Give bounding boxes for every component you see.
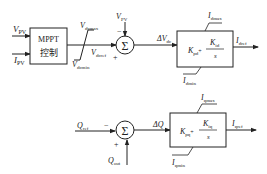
- top-loop: VPV IPV MPPT 控制 Vdcmax Vdcmin Vdcref Σ V…: [12, 11, 258, 86]
- pi-controller-q: [170, 113, 226, 147]
- s-denominator: s: [214, 52, 217, 60]
- idmax-label: Idmax: [207, 11, 222, 21]
- plus-sign: +: [113, 53, 118, 62]
- qref-label: Qref: [77, 121, 89, 131]
- iqmax-label: Iqmax: [200, 93, 215, 103]
- iqmin-leader: [172, 147, 193, 155]
- vdcmax-label: Vdcmax: [80, 21, 99, 31]
- iqmin-label: Iqmin: [171, 158, 185, 168]
- vpv-feedback-label: VPV: [116, 12, 128, 22]
- idmin-label: Idmin: [182, 76, 196, 86]
- delta-vdc-label: ΔVdc: [156, 34, 172, 44]
- mppt-label: MPPT: [38, 35, 59, 44]
- iqref-label: Iqref: [231, 119, 243, 129]
- sigma-symbol-2: Σ: [122, 124, 129, 138]
- control-diagram: VPV IPV MPPT 控制 Vdcmax Vdcmin Vdcref Σ V…: [0, 0, 267, 174]
- s-denominator-2: s: [207, 133, 210, 141]
- minus-sign: −: [117, 27, 122, 36]
- pi-controller-d: [177, 31, 233, 67]
- plus-sign-2: +: [114, 140, 119, 149]
- qout-label: Qout: [108, 156, 121, 166]
- bottom-loop: Qref − Σ + Qout ΔQ Kpq+ Kiq s Iqmax Iqmi…: [75, 93, 256, 168]
- vdcmin-label: Vdcmin: [72, 60, 90, 70]
- vdcref-label: Vdcref: [91, 48, 106, 58]
- idmin-leader: [183, 67, 201, 74]
- minus-sign-2: −: [104, 121, 109, 130]
- mppt-control-label: 控制: [40, 47, 58, 58]
- ipv-input-label: IPV: [13, 55, 25, 66]
- delta-q-label: ΔQ: [152, 120, 164, 129]
- iqmax-leader: [197, 104, 217, 113]
- vpv-input-label: VPV: [13, 24, 27, 35]
- idmax-leader: [205, 23, 222, 31]
- mppt-block: [30, 28, 67, 64]
- idref-label: Idref: [235, 36, 247, 46]
- sigma-symbol: Σ: [122, 39, 129, 53]
